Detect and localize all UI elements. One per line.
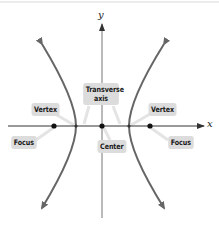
label-vertex-right: Vertex — [148, 103, 176, 116]
vertex-right-point — [127, 124, 130, 127]
focus-right-point — [147, 123, 152, 128]
label-vertex-left: Vertex — [31, 103, 59, 116]
label-focus-right: Focus — [168, 136, 193, 149]
y-axis-label: y — [98, 9, 104, 20]
focus-left-point — [51, 123, 56, 128]
center-point — [99, 123, 104, 128]
label-focus-left: Focus — [11, 136, 36, 149]
label-transverse-axis: Transverse axis — [83, 83, 119, 105]
x-axis-label: x — [207, 118, 213, 129]
vertex-left-point — [74, 124, 77, 127]
label-center: Center — [98, 140, 127, 153]
label-transverse-line1: Transverse — [86, 85, 117, 94]
label-transverse-line2: axis — [86, 94, 117, 103]
